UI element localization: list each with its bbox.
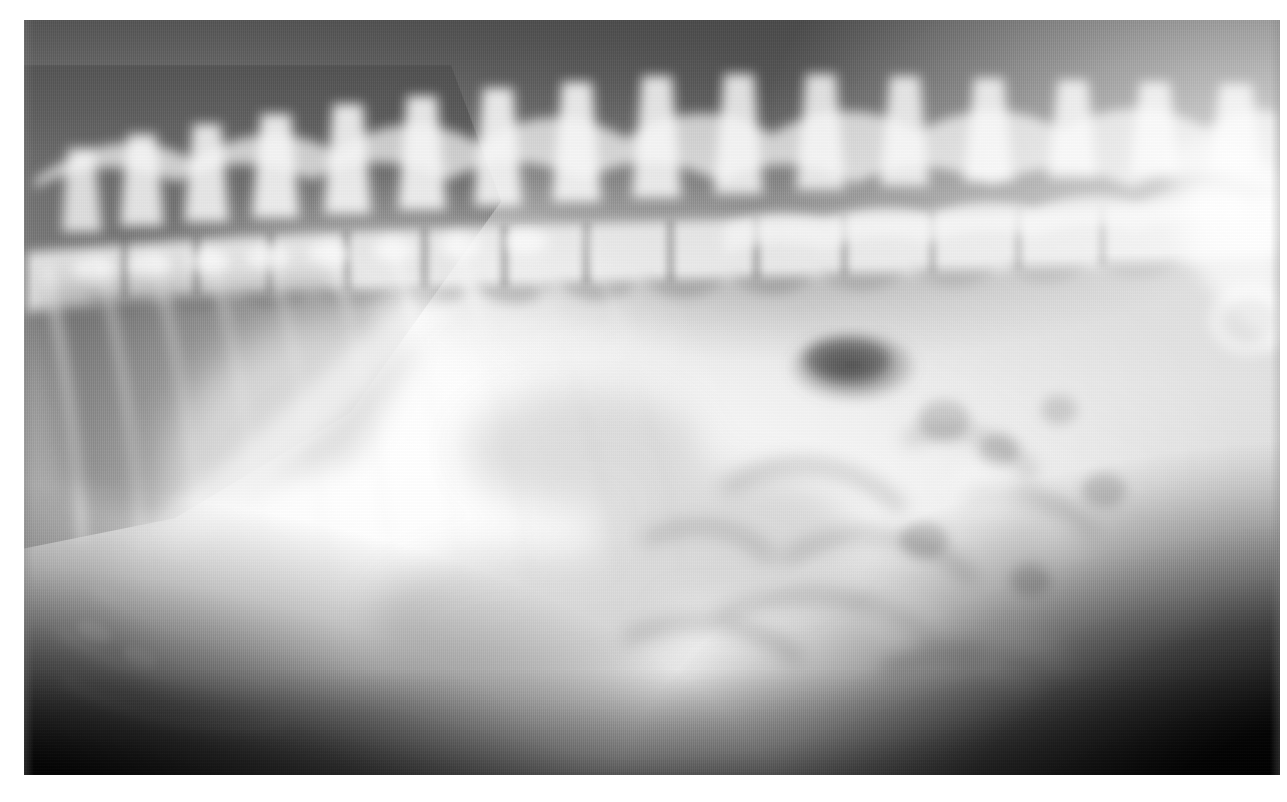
- film-grain-texture: [24, 20, 1280, 775]
- radiograph-image: [24, 20, 1280, 775]
- page-root: [0, 0, 1287, 802]
